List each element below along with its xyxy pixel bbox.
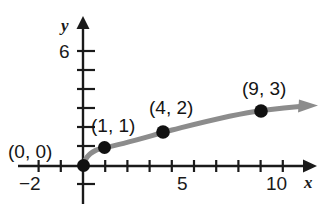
point-label-0-0: (0, 0): [8, 142, 52, 161]
point-label-4-2: (4, 2): [149, 98, 193, 117]
data-point-0-0: [77, 159, 90, 172]
y-axis-label: y: [61, 17, 69, 34]
x-tick-label-neg2: −2: [19, 174, 41, 193]
math-figure: y x 6 −2 5 10 (0, 0) (1, 1) (4, 2) (9, 3…: [0, 0, 335, 214]
y-tick-label-6: 6: [59, 42, 70, 61]
x-tick-label-10: 10: [266, 174, 287, 193]
data-point-4-2: [156, 125, 170, 139]
x-axis-arrowhead: [303, 160, 317, 173]
point-label-9-3: (9, 3): [242, 79, 286, 98]
x-tick-label-5: 5: [177, 174, 188, 193]
y-axis-arrowhead: [77, 16, 90, 29]
data-point-1-1: [98, 141, 111, 154]
x-axis-label: x: [304, 174, 313, 191]
data-point-9-3: [254, 104, 268, 118]
curve-arrowhead: [298, 100, 318, 113]
point-label-1-1: (1, 1): [91, 116, 135, 135]
